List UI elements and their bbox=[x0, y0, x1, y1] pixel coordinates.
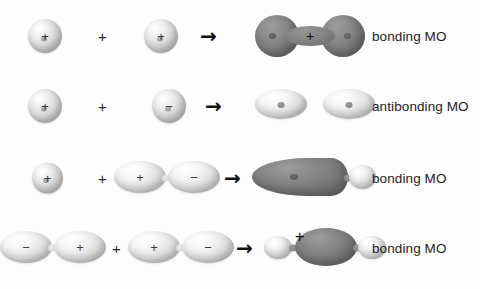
row-2-label: antibonding MO bbox=[372, 99, 469, 114]
row-3-label: bonding MO bbox=[372, 171, 447, 186]
row-3-plus-operator: + bbox=[98, 171, 107, 186]
orbital-sign-label: − bbox=[204, 241, 212, 254]
p-lobe-negative: − bbox=[182, 231, 234, 263]
row-4-label: bonding MO bbox=[372, 241, 447, 256]
row-3-reactant-1-s-orbital: + bbox=[32, 163, 63, 194]
mo-combination-row-2: + + − → antibonding MO bbox=[0, 70, 480, 142]
row-4-reactant-1-p-orbital: − + bbox=[0, 231, 106, 265]
large-dark-center-lobe: + bbox=[295, 228, 357, 266]
row-3-reaction-arrow: → bbox=[224, 168, 241, 188]
row-1-reactant-1-s-orbital: + bbox=[28, 19, 62, 53]
row-2-reactant-1-s-orbital: + bbox=[28, 89, 62, 123]
small-light-lobe-left bbox=[264, 236, 292, 259]
row-3-product-bonding-mo bbox=[252, 158, 370, 198]
row-2-product-antibonding-mo bbox=[255, 89, 375, 123]
orbital-sign-label: + bbox=[41, 100, 49, 113]
p-lobe-positive: + bbox=[128, 231, 180, 263]
orbital-sign-label: + bbox=[44, 172, 52, 185]
s-orbital-sphere: + bbox=[32, 163, 63, 194]
orbital-sign-label: + bbox=[136, 171, 144, 184]
row-2-reactant-2-s-orbital: − bbox=[152, 89, 186, 123]
right-nucleus-dot bbox=[344, 33, 351, 39]
p-lobe-negative: − bbox=[0, 231, 52, 263]
p-lobe-positive: + bbox=[54, 231, 106, 263]
orbital-sign-label: + bbox=[76, 241, 84, 254]
row-4-product-bonding-mo: + bbox=[264, 228, 376, 268]
row-2-reaction-arrow: → bbox=[205, 96, 222, 116]
molecular-orbital-diagram: + + + → + bonding MO bbox=[0, 0, 480, 289]
row-1-label: bonding MO bbox=[372, 29, 447, 44]
peanut-orbital-shape: + bbox=[255, 15, 365, 57]
nucleus-dot bbox=[346, 102, 353, 108]
row-1-reaction-arrow: → bbox=[200, 26, 217, 46]
orbital-sign-label: + bbox=[306, 29, 314, 43]
orbital-sign-label: + bbox=[150, 241, 158, 254]
orbital-sign-label: − bbox=[190, 171, 198, 184]
left-nucleus-dot bbox=[269, 33, 276, 39]
orbital-sign-label: + bbox=[157, 30, 165, 43]
p-lobe-negative: − bbox=[168, 161, 220, 193]
antibonding-right-ellipse bbox=[323, 89, 375, 119]
orbital-sign-label: + bbox=[41, 30, 49, 43]
nucleus-dot bbox=[278, 102, 285, 108]
row-1-plus-operator: + bbox=[98, 29, 107, 44]
p-lobe-positive: + bbox=[114, 161, 166, 193]
antibonding-left-ellipse bbox=[255, 89, 307, 119]
row-2-plus-operator: + bbox=[98, 99, 107, 114]
mo-combination-row-4: − + + + − → + bonding bbox=[0, 212, 480, 284]
row-4-plus-operator: + bbox=[112, 241, 121, 256]
row-4-reaction-arrow: → bbox=[236, 238, 253, 258]
row-1-reactant-2-s-orbital: + bbox=[144, 19, 178, 53]
s-orbital-sphere: + bbox=[28, 19, 62, 53]
s-orbital-sphere: + bbox=[28, 89, 62, 123]
nucleus-dot bbox=[290, 174, 298, 180]
orbital-sign-label: − bbox=[22, 241, 30, 254]
row-3-reactant-2-p-orbital: + − bbox=[114, 161, 220, 195]
s-orbital-sphere: + bbox=[144, 19, 178, 53]
s-orbital-sphere: − bbox=[152, 89, 186, 123]
large-dark-lobe bbox=[252, 158, 348, 196]
orbital-sign-label: − bbox=[165, 100, 173, 113]
mo-combination-row-3: + + + − → bonding MO bbox=[0, 142, 480, 214]
orbital-sign-label: + bbox=[295, 228, 304, 245]
mo-combination-row-1: + + + → + bonding MO bbox=[0, 0, 480, 72]
row-4-reactant-2-p-orbital: + − bbox=[128, 231, 234, 265]
row-1-product-bonding-mo: + bbox=[255, 15, 365, 57]
